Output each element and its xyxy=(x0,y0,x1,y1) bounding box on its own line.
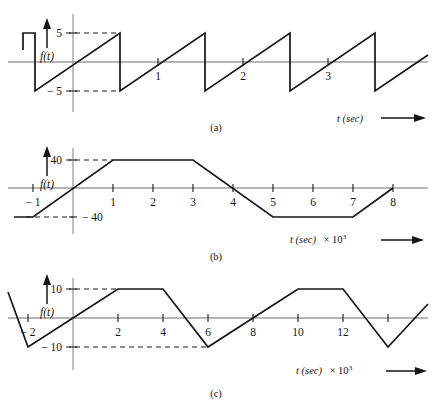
x-axis-caption-a-text: t (sec) xyxy=(337,113,363,125)
x-axis-caption-c-exp: 3 xyxy=(349,364,353,372)
x-tick-label-b-m1: − 1 xyxy=(25,196,40,208)
x-axis-caption-a: t (sec) xyxy=(337,113,363,125)
x-tick-label-b-6: 6 xyxy=(310,196,316,208)
x-tick-label-a-2: 2 xyxy=(240,70,246,82)
x-tick-label-c-6: 6 xyxy=(205,326,211,338)
x-tick-label-c-10: 10 xyxy=(292,326,304,338)
x-axis-caption-c-main: t (sec) xyxy=(296,365,322,377)
figure-panel-c: 10 − 10 f(t) − 2 2 4 6 8 10 12 t (sec) ×… xyxy=(0,262,433,408)
y-tick-label-b-1: 40 xyxy=(51,154,63,166)
x-tick-label-b-7: 7 xyxy=(350,196,356,208)
x-axis-arrow-head-b xyxy=(412,236,424,244)
chart-c-svg: 10 − 10 f(t) − 2 2 4 6 8 10 12 t (sec) ×… xyxy=(0,262,433,408)
figure-sheet: 5 − 5 f(t) 1 2 3 t (sec) (a) xyxy=(0,0,433,408)
y-axis-label-b: f(t) xyxy=(40,178,54,191)
x-tick-label-b-4: 4 xyxy=(230,196,236,208)
ft-arrow-head-a xyxy=(43,18,51,29)
x-axis-caption-c: t (sec) × 103 xyxy=(296,364,353,377)
figure-panel-a: 5 − 5 f(t) 1 2 3 t (sec) (a) xyxy=(0,0,433,140)
x-tick-label-b-3: 3 xyxy=(190,196,196,208)
x-tick-label-b-1: 1 xyxy=(110,196,116,208)
x-tick-label-c-8: 8 xyxy=(250,326,256,338)
y-tick-label-a-2: − 5 xyxy=(47,85,62,97)
x-axis-caption-b-main: t (sec) xyxy=(290,234,316,246)
x-axis-arrow-head-c xyxy=(415,367,427,375)
chart-b-svg: 40 − 40 f(t) − 1 1 2 3 4 5 6 7 8 t (sec)… xyxy=(0,136,433,264)
panel-caption-c: (c) xyxy=(210,388,222,400)
y-tick-label-c-1: 10 xyxy=(51,283,63,295)
x-axis-caption-b: t (sec) × 103 xyxy=(290,233,347,246)
y-axis-label-a: f(t) xyxy=(40,50,54,63)
x-axis-caption-b-mult: × 10 xyxy=(324,234,343,245)
panel-caption-a: (a) xyxy=(210,122,222,134)
x-tick-label-c-4: 4 xyxy=(160,326,166,338)
x-axis-caption-b-exp: 3 xyxy=(343,233,347,241)
x-tick-label-b-2: 2 xyxy=(150,196,156,208)
figure-panel-b: 40 − 40 f(t) − 1 1 2 3 4 5 6 7 8 t (sec)… xyxy=(0,136,433,264)
x-tick-label-c-12: 12 xyxy=(337,326,349,338)
x-tick-label-c-2: 2 xyxy=(115,326,121,338)
x-tick-label-b-8: 8 xyxy=(390,196,396,208)
y-axis-label-c: f(t) xyxy=(40,306,54,319)
y-tick-label-b-2: − 40 xyxy=(82,211,103,223)
chart-a-svg: 5 − 5 f(t) 1 2 3 t (sec) (a) xyxy=(0,0,433,140)
x-tick-label-a-1: 1 xyxy=(155,70,161,82)
y-tick-label-c-2: − 10 xyxy=(41,341,62,353)
x-tick-label-a-3: 3 xyxy=(325,70,331,82)
x-tick-label-c-m2: − 2 xyxy=(20,326,35,338)
x-axis-caption-c-mult: × 10 xyxy=(330,365,349,376)
x-tick-label-b-5: 5 xyxy=(270,196,276,208)
y-tick-label-a-1: 5 xyxy=(56,27,62,39)
x-axis-arrow-head-a xyxy=(414,114,426,122)
